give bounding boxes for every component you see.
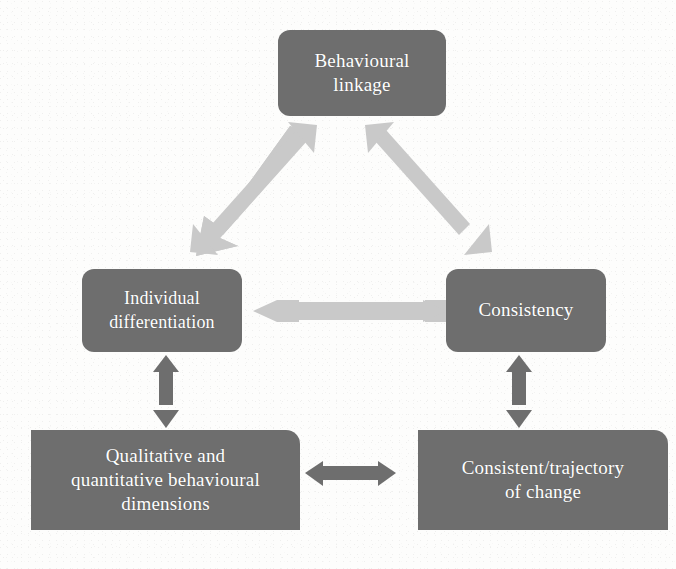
- node-individual-differentiation-label: Individual differentiation: [109, 287, 215, 333]
- node-qualitative-quantitative-label: Qualitative and quantitative behavioural…: [71, 444, 260, 517]
- diagram-canvas: Behavioural linkage Individual different…: [0, 0, 676, 569]
- node-consistency[interactable]: Consistency: [446, 269, 606, 352]
- connector-hit-consistency-to-consistent-trajectory[interactable]: [505, 354, 533, 430]
- node-consistent-trajectory[interactable]: Consistent/trajectory of change: [418, 430, 668, 530]
- connector-hit-behavioural-linkage-to-individual-differentiation[interactable]: [190, 120, 320, 260]
- connector-hit-qualitative-quantitative-to-consistent-trajectory[interactable]: [305, 460, 397, 487]
- node-consistency-label: Consistency: [478, 298, 573, 322]
- node-behavioural-linkage-label: Behavioural linkage: [314, 49, 409, 98]
- node-behavioural-linkage[interactable]: Behavioural linkage: [278, 30, 446, 116]
- connector-hit-behavioural-linkage-to-consistency[interactable]: [360, 120, 495, 260]
- node-individual-differentiation[interactable]: Individual differentiation: [82, 269, 242, 352]
- node-qualitative-quantitative[interactable]: Qualitative and quantitative behavioural…: [31, 430, 300, 530]
- node-consistent-trajectory-label: Consistent/trajectory of change: [462, 456, 625, 505]
- connector-hit-individual-differentiation-to-qualitative-quantitative[interactable]: [152, 354, 180, 430]
- connector-hit-individual-differentiation-to-consistency[interactable]: [253, 298, 447, 324]
